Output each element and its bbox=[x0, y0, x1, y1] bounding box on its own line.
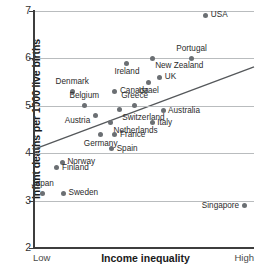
x-axis-label-low: Low bbox=[33, 252, 50, 263]
data-point[interactable] bbox=[189, 56, 194, 61]
data-point-label: France bbox=[120, 131, 145, 139]
data-point-label: Denmark bbox=[56, 78, 89, 86]
data-point-label: Sweden bbox=[68, 189, 98, 197]
data-point[interactable] bbox=[132, 103, 137, 108]
data-point-label: Greece bbox=[121, 92, 148, 100]
gridline bbox=[35, 153, 254, 154]
data-point[interactable] bbox=[242, 203, 247, 208]
data-point[interactable] bbox=[82, 103, 87, 108]
gridline bbox=[35, 106, 254, 107]
data-point[interactable] bbox=[93, 113, 98, 118]
y-axis-tick-label: 2 bbox=[5, 241, 31, 253]
y-axis-tick-label: 4 bbox=[5, 146, 31, 158]
y-axis-tick-label: 6 bbox=[5, 51, 31, 63]
data-point-label: USA bbox=[211, 11, 228, 19]
data-point-label: Ireland bbox=[114, 68, 139, 76]
plot-area: USAPortugalNew ZealandIrelandUKIsraelDen… bbox=[35, 11, 254, 248]
data-point-label: Italy bbox=[157, 119, 172, 127]
data-point-label: Japan bbox=[32, 180, 54, 188]
x-axis-label-high: High bbox=[234, 252, 254, 263]
data-point-label: Austria bbox=[65, 117, 90, 125]
x-axis-title: Income inequality bbox=[35, 252, 256, 264]
data-point-label: Australia bbox=[168, 107, 200, 115]
y-axis-tick-labels: 234567 bbox=[0, 0, 31, 274]
data-point-label: UK bbox=[165, 73, 176, 81]
data-point-label: Portugal bbox=[176, 45, 207, 53]
y-axis-tick-label: 3 bbox=[5, 194, 31, 206]
data-point-label: Singapore bbox=[202, 202, 239, 210]
data-point[interactable] bbox=[150, 56, 155, 61]
data-point[interactable] bbox=[61, 191, 66, 196]
gridline bbox=[35, 58, 254, 59]
data-point-label: New Zealand bbox=[155, 62, 203, 70]
data-point-label: Belgium bbox=[69, 92, 99, 100]
scatter-chart: Infant deaths per 1000 live births 23456… bbox=[0, 0, 256, 274]
data-point[interactable] bbox=[117, 107, 122, 112]
data-point-label: Spain bbox=[117, 145, 138, 153]
y-axis-tick-label: 5 bbox=[5, 99, 31, 111]
y-axis-tick-label: 7 bbox=[5, 4, 31, 16]
data-point-label: Finland bbox=[62, 164, 89, 172]
